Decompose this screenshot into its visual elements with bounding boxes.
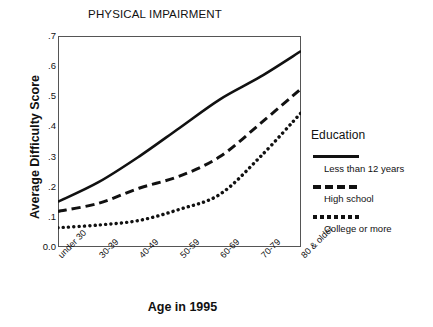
chart-page: PHYSICAL IMPAIRMENT Average Difficulty S… xyxy=(0,0,433,327)
legend-entry[interactable]: High school xyxy=(311,185,433,204)
legend-entry[interactable]: College or more xyxy=(311,215,433,234)
legend-label: College or more xyxy=(324,223,433,234)
legend-title: Education xyxy=(311,128,433,142)
x-tick-label: under 30 xyxy=(56,228,88,260)
legend-entries: Less than 12 yearsHigh schoolCollege or … xyxy=(311,155,433,234)
x-tick-label: 50-59 xyxy=(178,237,201,260)
legend: Education Less than 12 yearsHigh schoolC… xyxy=(311,128,433,245)
legend-swatch-dotted-icon xyxy=(313,215,359,219)
x-tick-label: 70-79 xyxy=(259,237,282,260)
x-tick-label: 30-39 xyxy=(97,237,120,260)
x-tick-label: 60-69 xyxy=(218,237,241,260)
legend-entry[interactable]: Less than 12 years xyxy=(311,155,433,174)
legend-swatch-solid-icon xyxy=(313,155,359,158)
legend-label: High school xyxy=(324,193,433,204)
legend-label: Less than 12 years xyxy=(324,163,433,174)
legend-swatch-dashed-icon xyxy=(313,185,359,189)
x-tick-label: 40-49 xyxy=(137,237,160,260)
